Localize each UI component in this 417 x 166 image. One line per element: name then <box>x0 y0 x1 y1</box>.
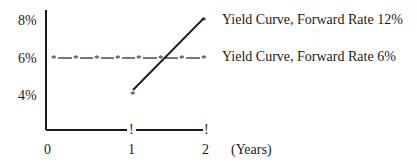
marker-6-1: * <box>73 51 79 65</box>
x-tick-mark-1: ! <box>129 123 134 137</box>
x-tick-mark-2: ! <box>204 123 209 137</box>
y-tick-label-4: 4% <box>18 89 37 103</box>
x-axis-unit-label: (Years) <box>231 143 272 157</box>
marker-6-5: * <box>158 51 164 65</box>
y-tick-label-6: 6% <box>18 52 37 66</box>
marker-12-start: * <box>130 87 136 101</box>
marker-6-6: * <box>179 51 185 65</box>
y-tick-label-8: 8% <box>18 14 37 28</box>
x-tick-label-1: 1 <box>128 143 135 157</box>
x-tick-label-2: 2 <box>202 143 209 157</box>
legend-item-forward-rate-12: Yield Curve, Forward Rate 12% <box>222 13 403 27</box>
series-forward-rate-12-line <box>133 18 204 90</box>
marker-12-end: * <box>201 13 207 27</box>
marker-6-7: * <box>201 51 207 65</box>
legend-item-forward-rate-6: Yield Curve, Forward Rate 6% <box>222 50 396 64</box>
marker-6-0: * <box>51 51 57 65</box>
marker-6-3: * <box>115 51 121 65</box>
marker-6-4: * <box>136 51 142 65</box>
marker-6-2: * <box>94 51 100 65</box>
x-tick-label-0: 0 <box>44 143 51 157</box>
